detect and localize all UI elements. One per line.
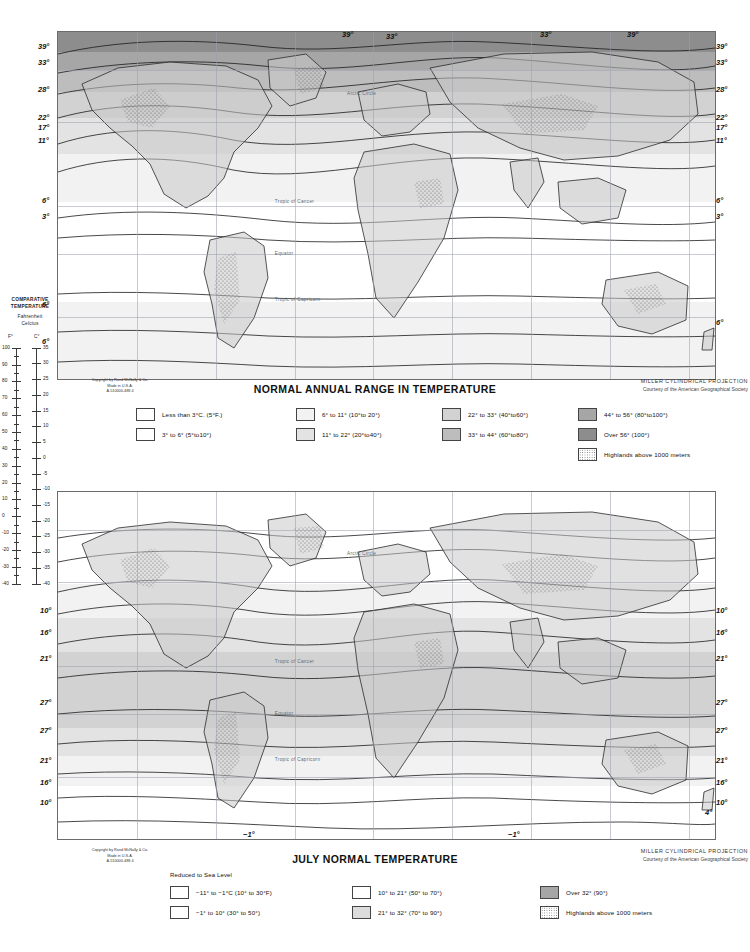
- legend-item[interactable]: −11° to −1°C (10° to 30°F): [170, 886, 272, 899]
- legend-label: 6° to 11° (10°to 20°): [322, 411, 380, 418]
- legend-swatch: [540, 906, 559, 919]
- isotherm-label: 27°: [40, 698, 51, 707]
- legend-note-reduced-sea-level: Reduced to Sea Level: [170, 872, 232, 878]
- geo-label-tropic-cancer: Tropic of Cancer: [275, 659, 314, 664]
- isotherm-label: 39°: [627, 30, 638, 39]
- projection-courtesy: Courtesy of the American Geographical So…: [540, 386, 748, 393]
- legend-column: 10° to 21° (50° to 70°)21° to 32° (70° t…: [352, 886, 442, 926]
- isotherm-label: 17°: [38, 123, 49, 132]
- isotherm-label: 11°: [716, 136, 727, 145]
- isotherm-label: 33°: [38, 58, 49, 67]
- isotherm-label: 33°: [716, 58, 727, 67]
- isotherm-label: 6°: [716, 318, 723, 327]
- isotherm-label: 39°: [342, 30, 353, 39]
- legend-swatch: [352, 906, 371, 919]
- geo-label-tropic-cancer: Tropic of Cancer: [275, 199, 314, 204]
- legend-label: Over 56° (100°): [604, 431, 649, 438]
- legend-label: Over 32° (90°): [566, 889, 608, 896]
- legend-item[interactable]: 11° to 22° (20°to40°): [296, 428, 382, 441]
- legend-swatch: [442, 408, 461, 421]
- isotherm-label: 28°: [38, 85, 49, 94]
- isotherm-label: 6°: [716, 196, 723, 205]
- isotherm-label: 21°: [40, 756, 51, 765]
- legend-swatch: [442, 428, 461, 441]
- isotherm-label: 33°: [540, 30, 551, 39]
- legend-label: 11° to 22° (20°to40°): [322, 431, 382, 438]
- map-sheet: COMPARATIVE TEMPERATURE Fahrenheit Celci…: [0, 0, 750, 952]
- geo-label-arctic-circle: Arctic Circle: [347, 551, 376, 556]
- graticule: [58, 492, 715, 839]
- legend-swatch: [136, 408, 155, 421]
- legend-label: 22° to 33° (40°to60°): [468, 411, 528, 418]
- legend-item[interactable]: Highlands above 1000 meters: [578, 448, 690, 461]
- isotherm-label: 27°: [716, 726, 727, 735]
- isotherm-label: 22°: [38, 113, 49, 122]
- legend-item[interactable]: 3° to 6° (5°to10°): [136, 428, 222, 441]
- isotherm-label: 33°: [386, 32, 397, 41]
- isotherm-label: 27°: [716, 698, 727, 707]
- isotherm-label: 16°: [40, 628, 51, 637]
- legend-swatch: [136, 428, 155, 441]
- isotherm-label: 16°: [716, 628, 727, 637]
- legend-item[interactable]: 21° to 32° (70° to 90°): [352, 906, 442, 919]
- legend-swatch: [540, 886, 559, 899]
- isotherm-label: 27°: [40, 726, 51, 735]
- legend-item[interactable]: −1° to 10° (30° to 50°): [170, 906, 272, 919]
- legend-swatch: [170, 886, 189, 899]
- geo-label-equator: Equator: [275, 711, 294, 716]
- isotherm-label: 6°: [42, 196, 49, 205]
- legend-label: −1° to 10° (30° to 50°): [196, 909, 260, 916]
- legend-swatch: [170, 906, 189, 919]
- isotherm-label: 16°: [40, 778, 51, 787]
- isotherm-label: 28°: [716, 85, 727, 94]
- projection-credit: MILLER CYLINDRICAL PROJECTION Courtesy o…: [540, 378, 748, 393]
- isotherm-label: 11°: [38, 136, 49, 145]
- isotherm-label: 21°: [716, 756, 727, 765]
- isotherm-label: 10°: [40, 798, 51, 807]
- map-july-temperature[interactable]: Arctic Circle Tropic of Cancer Equator T…: [57, 491, 716, 840]
- isotherm-label: 4°: [705, 808, 712, 817]
- geo-label-tropic-capricorn: Tropic of Capricorn: [275, 757, 321, 762]
- map-panel-july: Arctic Circle Tropic of Cancer Equator T…: [0, 478, 750, 952]
- legend-item[interactable]: 33° to 44° (60°to80°): [442, 428, 528, 441]
- isotherm-label: 22°: [716, 113, 727, 122]
- map-panel-annual-range: Arctic Circle Tropic of Cancer Equator T…: [0, 0, 750, 478]
- legend-swatch: [578, 428, 597, 441]
- legend-item[interactable]: Highlands above 1000 meters: [540, 906, 652, 919]
- legend-label: 44° to 56° (80°to100°): [604, 411, 668, 418]
- legend-item[interactable]: Over 32° (90°): [540, 886, 652, 899]
- geo-label-equator: Equator: [275, 251, 294, 256]
- isotherm-label: 3°: [716, 212, 723, 221]
- legend-label: 3° to 6° (5°to10°): [162, 431, 211, 438]
- geo-label-tropic-capricorn: Tropic of Capricorn: [275, 297, 321, 302]
- legend-item[interactable]: Over 56° (100°): [578, 428, 690, 441]
- isotherm-label: 3°: [42, 212, 49, 221]
- projection-credit: MILLER CYLINDRICAL PROJECTION Courtesy o…: [540, 848, 748, 863]
- isotherm-label: 39°: [38, 42, 49, 51]
- isotherm-label: 21°: [716, 654, 727, 663]
- legend-item[interactable]: 10° to 21° (50° to 70°): [352, 886, 442, 899]
- isotherm-label: 10°: [716, 798, 727, 807]
- legend-swatch: [352, 886, 371, 899]
- publisher-credit: Copyright by Rand MᴄNally & Co. Made in …: [40, 848, 200, 865]
- isotherm-label: 6°: [42, 337, 49, 346]
- legend-column: Less than 3°C. (5°F.)3° to 6° (5°to10°): [136, 408, 222, 448]
- legend-item[interactable]: Less than 3°C. (5°F.): [136, 408, 222, 421]
- isotherm-label: 17°: [716, 123, 727, 132]
- isotherm-label: 6°: [42, 300, 49, 309]
- legend-item[interactable]: 44° to 56° (80°to100°): [578, 408, 690, 421]
- geo-label-arctic-circle: Arctic Circle: [347, 91, 376, 96]
- projection-name: MILLER CYLINDRICAL PROJECTION: [540, 378, 748, 386]
- projection-name: MILLER CYLINDRICAL PROJECTION: [540, 848, 748, 856]
- legend-label: 10° to 21° (50° to 70°): [378, 889, 442, 896]
- map-title-july: JULY NORMAL TEMPERATURE: [245, 853, 505, 865]
- isotherm-label: −1°: [243, 830, 255, 839]
- legend-item[interactable]: 22° to 33° (40°to60°): [442, 408, 528, 421]
- map-annual-range[interactable]: Arctic Circle Tropic of Cancer Equator T…: [57, 31, 716, 380]
- legend-swatch: [296, 408, 315, 421]
- legend-column: 44° to 56° (80°to100°)Over 56° (100°)Hig…: [578, 408, 690, 468]
- legend-label: −11° to −1°C (10° to 30°F): [196, 889, 272, 896]
- legend-item[interactable]: 6° to 11° (10°to 20°): [296, 408, 382, 421]
- isotherm-label: 21°: [40, 654, 51, 663]
- legend-label: 33° to 44° (60°to80°): [468, 431, 528, 438]
